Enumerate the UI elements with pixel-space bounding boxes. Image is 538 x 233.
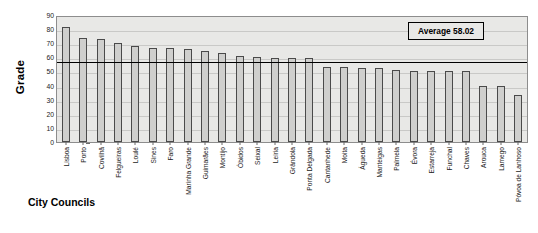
x-axis-tick-mark (152, 142, 153, 145)
x-axis-category-label: Évora (410, 147, 417, 164)
bar (410, 71, 418, 142)
bar (445, 71, 453, 142)
category-slot: Chaves (457, 145, 474, 230)
category-slot: Óbidos (231, 145, 248, 230)
bar-slot (336, 17, 353, 142)
bar-slot (492, 17, 509, 142)
bar (218, 53, 226, 142)
category-slot: Loulé (127, 145, 144, 230)
x-axis-tick-mark (170, 142, 171, 145)
x-axis-category-label: Águeda (358, 147, 365, 170)
bar (375, 68, 383, 142)
x-axis-tick-mark (483, 142, 484, 145)
x-axis-category-label: Manteigas (376, 147, 383, 177)
x-axis-tick-mark (309, 142, 310, 145)
category-slot: Águeda (353, 145, 370, 230)
y-axis-tick-label: 0 (50, 139, 54, 147)
x-axis-tick-mark (222, 142, 223, 145)
x-axis-category-label: Grândola (288, 147, 295, 174)
y-axis-tick-label: 10 (46, 125, 54, 133)
x-axis-category-label: Arouca (480, 147, 487, 168)
category-slot: Felgueiras (109, 145, 126, 230)
bar-slot (57, 17, 74, 142)
bar (305, 58, 313, 142)
category-slot: Funchal (440, 145, 457, 230)
x-axis-category-label: Felgueiras (114, 147, 121, 178)
x-axis-category-label: Porto (80, 147, 87, 163)
category-slot: Estarreja (423, 145, 440, 230)
average-line (57, 62, 527, 63)
x-axis-tick-mark (379, 142, 380, 145)
bar (427, 71, 435, 142)
bar-slot (109, 17, 126, 142)
x-axis-category-labels: LisboaPortoCovilhãFelgueirasLouléSinesFa… (57, 145, 527, 230)
category-slot: Faro (161, 145, 178, 230)
bar-slot (161, 17, 178, 142)
x-axis-category-label: Palmela (393, 147, 400, 171)
category-slot: Montijo (214, 145, 231, 230)
bar (497, 86, 505, 142)
y-axis-tick-label: 30 (46, 97, 54, 105)
x-axis-category-label: Cantanhede (323, 147, 330, 183)
category-slot: Guimarães (196, 145, 213, 230)
category-slot: Marinha Grande (179, 145, 196, 230)
average-legend-box: Average 58.02 (408, 22, 484, 40)
category-slot: Leiria (266, 145, 283, 230)
x-axis-category-label: Lisboa (62, 147, 69, 166)
bar (479, 86, 487, 142)
bar (340, 67, 348, 142)
x-axis-category-label: Ponta Delgada (306, 147, 313, 191)
x-axis-tick-mark (100, 142, 101, 145)
bar (236, 56, 244, 142)
bar-slot (127, 17, 144, 142)
y-axis-tick-label: 60 (46, 54, 54, 62)
bar-slot (388, 17, 405, 142)
bar (114, 43, 122, 142)
x-axis-category-label: Covilhã (97, 147, 104, 169)
category-slot: Porto (74, 145, 91, 230)
x-axis-tick-mark (413, 142, 414, 145)
x-axis-category-label: Funchal (445, 147, 452, 170)
category-slot: Sines (144, 145, 161, 230)
bar-slot (231, 17, 248, 142)
x-axis-category-label: Moita (341, 147, 348, 163)
x-axis-tick-mark (361, 142, 362, 145)
x-axis-category-label: Lamego (497, 147, 504, 171)
bar-slot (353, 17, 370, 142)
bar-slot (266, 17, 283, 142)
x-axis-tick-mark (466, 142, 467, 145)
y-axis-tick-label: 20 (46, 111, 54, 119)
x-axis-category-label: Loulé (132, 147, 139, 163)
bar (358, 68, 366, 142)
bar-slot (92, 17, 109, 142)
bar (514, 95, 522, 142)
x-axis-category-label: Montijo (219, 147, 226, 168)
y-axis-tick-label: 70 (46, 40, 54, 48)
category-slot: Covilhã (92, 145, 109, 230)
category-slot: Arouca (475, 145, 492, 230)
bar (97, 39, 105, 142)
bar-slot (370, 17, 387, 142)
y-axis-tick-label: 80 (46, 26, 54, 34)
x-axis-tick-mark (117, 142, 118, 145)
bar (253, 57, 261, 142)
x-axis-category-label: Póvoa de Lanhoso (515, 147, 522, 202)
x-axis-tick-mark (83, 142, 84, 145)
bar (79, 38, 87, 142)
bar (323, 67, 331, 142)
bar (62, 27, 70, 142)
category-slot: Grândola (283, 145, 300, 230)
x-axis-tick-mark (239, 142, 240, 145)
bar-slot (510, 17, 527, 142)
x-axis-tick-mark (257, 142, 258, 145)
bar-slot (301, 17, 318, 142)
category-slot: Ponta Delgada (301, 145, 318, 230)
y-axis-tick-label: 40 (46, 83, 54, 91)
x-axis-tick-mark (187, 142, 188, 145)
x-axis-category-label: Sines (149, 147, 156, 164)
bar-slot (248, 17, 265, 142)
x-axis-category-label: Guimarães (201, 147, 208, 179)
x-axis-tick-mark (274, 142, 275, 145)
category-slot: Seixal (248, 145, 265, 230)
x-axis-tick-mark (518, 142, 519, 145)
